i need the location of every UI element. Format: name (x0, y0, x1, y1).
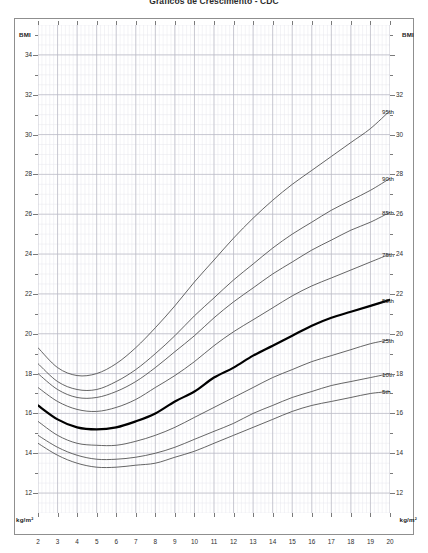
x-tick-10: 10 (191, 538, 198, 545)
y-tickmark-right-25 (390, 234, 393, 235)
x-tick-18: 18 (347, 538, 354, 545)
y-tickmark-left-14 (33, 453, 38, 454)
y-tick-right-22: 22 (396, 290, 403, 297)
y-tick-right-12: 12 (396, 489, 403, 496)
y-tickmark-right-18 (390, 374, 395, 375)
y-tick-left-30: 30 (0, 131, 32, 138)
x-tickmark-top-17 (331, 21, 332, 25)
x-tickmark-7 (136, 513, 137, 517)
x-tick-12: 12 (230, 538, 237, 545)
y-tickmark-right-21 (390, 314, 393, 315)
x-tickmark-16 (312, 513, 313, 517)
y-tickmark-right-27 (390, 194, 393, 195)
x-tick-14: 14 (269, 538, 276, 545)
y-tickmark-right-29 (390, 154, 393, 155)
x-tick-17: 17 (328, 538, 335, 545)
x-tickmark-top-16 (312, 21, 313, 25)
x-tickmark-11 (214, 513, 215, 517)
y-tick-left-12: 12 (0, 489, 32, 496)
y-tickmark-left-24 (33, 254, 38, 255)
x-tickmark-top-4 (77, 21, 78, 25)
y-tick-right-30: 30 (396, 131, 403, 138)
y-tickmark-left-25 (35, 234, 38, 235)
y-tick-right-24: 24 (396, 250, 403, 257)
x-tick-9: 9 (173, 538, 177, 545)
y-tickmark-right-26 (390, 214, 395, 215)
y-tick-left-14: 14 (0, 449, 32, 456)
y-tickmark-right-20 (390, 334, 395, 335)
x-tickmark-top-5 (97, 21, 98, 25)
x-tick-5: 5 (95, 538, 99, 545)
y-tickmark-right-31 (390, 115, 393, 116)
y-tickmark-left-22 (33, 294, 38, 295)
growth-chart-page: Gráficos de Crescimento - CDC BMI BMI kg… (0, 0, 428, 553)
y-tickmark-right-13 (390, 473, 393, 474)
y-tick-left-20: 20 (0, 330, 32, 337)
x-tickmark-top-2 (38, 21, 39, 25)
y-tick-left-16: 16 (0, 409, 32, 416)
x-tickmark-2 (38, 513, 39, 517)
y-axis-right-ticks: 1214161820222426283032 (396, 0, 428, 553)
y-tick-left-34: 34 (0, 51, 32, 58)
x-tickmark-14 (273, 513, 274, 517)
x-tickmark-8 (155, 513, 156, 517)
x-tickmark-9 (175, 513, 176, 517)
y-tickmark-right-28 (390, 174, 395, 175)
y-tickmark-right-15 (390, 433, 393, 434)
x-tickmark-top-8 (155, 21, 156, 25)
x-tickmark-top-12 (234, 21, 235, 25)
y-tickmark-left-35 (35, 35, 38, 36)
y-tick-left-22: 22 (0, 290, 32, 297)
percentile-label-50th: 50th (382, 296, 394, 303)
y-tickmark-right-22 (390, 294, 395, 295)
x-tickmark-top-9 (175, 21, 176, 25)
percentile-curves-svg (38, 25, 390, 513)
y-tick-left-24: 24 (0, 250, 32, 257)
x-tick-19: 19 (367, 538, 374, 545)
y-tickmark-left-15 (35, 433, 38, 434)
plot-area (38, 25, 390, 513)
y-tickmark-right-16 (390, 413, 395, 414)
y-tickmark-left-17 (35, 393, 38, 394)
x-tickmark-17 (331, 513, 332, 517)
x-tick-7: 7 (134, 538, 138, 545)
y-tick-right-32: 32 (396, 91, 403, 98)
y-tickmark-right-34 (390, 55, 395, 56)
x-tickmark-top-11 (214, 21, 215, 25)
x-tickmark-top-3 (58, 21, 59, 25)
x-tick-8: 8 (154, 538, 158, 545)
x-tickmark-19 (370, 513, 371, 517)
y-tickmark-left-18 (33, 374, 38, 375)
y-tickmark-left-26 (33, 214, 38, 215)
y-tick-right-26: 26 (396, 210, 403, 217)
y-tick-right-16: 16 (396, 409, 403, 416)
y-tick-right-28: 28 (396, 170, 403, 177)
x-tickmark-15 (292, 513, 293, 517)
x-tick-2: 2 (36, 538, 40, 545)
x-tickmark-top-14 (273, 21, 274, 25)
y-tick-left-32: 32 (0, 91, 32, 98)
x-tick-3: 3 (56, 538, 60, 545)
y-tickmark-right-19 (390, 354, 393, 355)
y-tickmark-right-33 (390, 75, 393, 76)
x-tick-11: 11 (211, 538, 218, 545)
x-tickmark-top-19 (370, 21, 371, 25)
y-tickmark-left-29 (35, 154, 38, 155)
y-tickmark-left-27 (35, 194, 38, 195)
x-tickmark-13 (253, 513, 254, 517)
x-tickmark-10 (194, 513, 195, 517)
y-tickmark-left-20 (33, 334, 38, 335)
y-tickmark-left-32 (33, 95, 38, 96)
y-tickmark-left-12 (33, 493, 38, 494)
y-tickmark-right-23 (390, 274, 393, 275)
y-tick-right-14: 14 (396, 449, 403, 456)
x-tickmark-6 (116, 513, 117, 517)
x-tickmark-top-18 (351, 21, 352, 25)
y-tickmark-left-23 (35, 274, 38, 275)
x-tickmark-top-7 (136, 21, 137, 25)
x-tick-4: 4 (75, 538, 79, 545)
percentile-label-25th: 25th (382, 336, 394, 343)
y-tick-right-20: 20 (396, 330, 403, 337)
y-tickmark-right-12 (390, 493, 395, 494)
x-tickmark-top-6 (116, 21, 117, 25)
